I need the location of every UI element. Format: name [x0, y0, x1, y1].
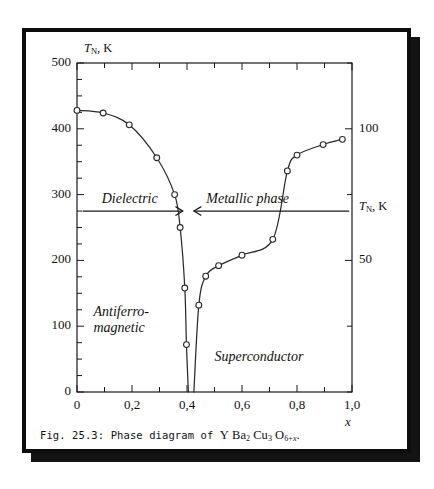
- x-tick-label: 0,6: [230, 397, 254, 413]
- element-oxygen: O: [275, 428, 284, 442]
- y-tick-label-left: 300: [35, 186, 71, 202]
- metallic-phase-label: Metallic phase: [206, 191, 289, 207]
- element-yttrium: Y: [220, 428, 229, 442]
- element-barium: Ba: [232, 428, 246, 442]
- antiferromagnetic-region-label: Antiferro-magnetic: [94, 304, 149, 335]
- figure-frame-border: [22, 28, 411, 453]
- element-copper: Cu: [253, 428, 268, 442]
- x-tick-label: 0,8: [285, 397, 309, 413]
- x-tick-label: 1,0: [340, 397, 364, 413]
- dielectric-region-label: Dielectric: [102, 191, 158, 207]
- y-tick-label-left: 0: [35, 383, 71, 399]
- y-tick-label-right: 100: [359, 120, 389, 136]
- y-tick-label-right: 50: [359, 251, 389, 267]
- y-axis-title-left: TN, K: [84, 41, 112, 56]
- x-tick-label: 0,2: [120, 397, 144, 413]
- figure-caption: Fig. 25.3: Phase diagram of YBa2Cu3O6+x.: [40, 428, 380, 443]
- y-tick-label-left: 500: [35, 54, 71, 70]
- caption-formula: YBa2Cu3O6+x.: [220, 428, 300, 442]
- y-axis-title-right: TN, K: [359, 199, 387, 214]
- y-tick-label-left: 100: [35, 317, 71, 333]
- barium-subscript: 2: [246, 434, 250, 443]
- y-tick-label-left: 200: [35, 251, 71, 267]
- superconductor-region-label: Superconductor: [215, 349, 304, 365]
- y-tick-label-left: 400: [35, 120, 71, 136]
- figure-page: 00,20,40,60,81,0010020030040050050100TN,…: [0, 0, 434, 489]
- x-tick-label: 0,4: [175, 397, 199, 413]
- caption-prefix: Fig. 25.3: Phase diagram of: [40, 429, 213, 441]
- oxygen-subscript: 6+x: [284, 434, 296, 443]
- caption-period: .: [297, 428, 300, 442]
- x-tick-label: 0: [65, 397, 89, 413]
- copper-subscript: 3: [268, 434, 272, 443]
